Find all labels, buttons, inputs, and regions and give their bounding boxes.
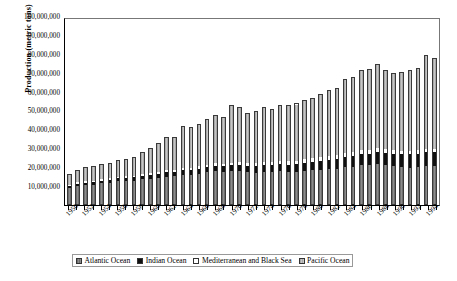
bar-segment bbox=[238, 108, 241, 162]
bar bbox=[327, 90, 332, 205]
legend-label: Mediterranean and Black Sea bbox=[202, 257, 292, 265]
bar-segment bbox=[376, 152, 379, 164]
bar-segment bbox=[295, 172, 298, 204]
y-axis-tick-label: 90,000,000 bbox=[28, 33, 60, 40]
bar bbox=[91, 166, 96, 205]
legend-swatch-icon bbox=[193, 258, 199, 264]
bar-segment bbox=[352, 156, 355, 166]
bar bbox=[99, 164, 104, 205]
bar-segment bbox=[214, 171, 217, 204]
legend-label: Pacific Ocean bbox=[307, 257, 349, 265]
bar-segment bbox=[287, 172, 290, 204]
bar-segment bbox=[206, 120, 209, 165]
x-axis-tick-label: 1986 bbox=[359, 203, 374, 218]
bar bbox=[416, 68, 421, 205]
bar bbox=[245, 113, 250, 205]
bar bbox=[213, 115, 218, 205]
bar-segment bbox=[157, 178, 160, 204]
bar-segment bbox=[384, 165, 387, 204]
x-axis-tick-label: 1970 bbox=[229, 203, 244, 218]
bar bbox=[351, 77, 356, 205]
bar-segment bbox=[319, 161, 322, 169]
bar-segment bbox=[279, 106, 282, 161]
bar bbox=[197, 124, 202, 205]
bar-segment bbox=[173, 176, 176, 204]
bar-segment bbox=[165, 177, 168, 204]
y-axis-tick-label: 60,000,000 bbox=[28, 90, 60, 97]
plot-area bbox=[64, 18, 440, 206]
bar bbox=[181, 126, 186, 205]
bar-segment bbox=[384, 71, 387, 150]
bar-segment bbox=[368, 154, 371, 165]
bar-segment bbox=[425, 166, 428, 204]
bar-segment bbox=[190, 128, 193, 167]
bar-segment bbox=[255, 173, 258, 204]
y-axis-tick-label: 50,000,000 bbox=[28, 108, 60, 115]
bar-segment bbox=[336, 89, 339, 155]
bar-segment bbox=[344, 80, 347, 153]
bar-segment bbox=[149, 179, 152, 204]
y-axis-tick-label: 30,000,000 bbox=[28, 146, 60, 153]
y-axis-tick-label: 80,000,000 bbox=[28, 52, 60, 59]
legend-swatch-icon bbox=[137, 258, 143, 264]
bar-segment bbox=[125, 160, 128, 177]
bar-segment bbox=[76, 171, 79, 182]
bar-segment bbox=[400, 154, 403, 167]
bar-segment bbox=[384, 153, 387, 165]
bar-segment bbox=[352, 167, 355, 204]
bar bbox=[310, 98, 315, 205]
bar bbox=[124, 159, 129, 205]
bar bbox=[424, 55, 429, 205]
bar-segment bbox=[409, 154, 412, 167]
y-axis-tick-label: 10,000,000 bbox=[28, 184, 60, 191]
bar bbox=[83, 167, 88, 205]
bar-segment bbox=[417, 154, 420, 168]
x-axis-tick-label: 1982 bbox=[327, 203, 342, 218]
x-axis-tick-label: 1956 bbox=[114, 203, 129, 218]
bar bbox=[108, 163, 113, 205]
bar-segment bbox=[344, 157, 347, 167]
bar bbox=[116, 160, 121, 205]
bar bbox=[67, 174, 72, 205]
bar-segment bbox=[206, 172, 209, 204]
bar-segment bbox=[157, 144, 160, 172]
x-axis-tick-label: 1960 bbox=[147, 203, 162, 218]
bar-segment bbox=[360, 165, 363, 204]
bar-segment bbox=[230, 106, 233, 162]
bar-segment bbox=[336, 169, 339, 204]
legend-label: Atlantic Ocean bbox=[85, 257, 131, 265]
bar-segment bbox=[433, 166, 436, 204]
legend-item: Atlantic Ocean bbox=[76, 257, 130, 265]
bar-segment bbox=[360, 71, 363, 150]
y-axis-tick-label: 40,000,000 bbox=[28, 127, 60, 134]
bar bbox=[164, 137, 169, 205]
bar bbox=[278, 105, 283, 205]
bar bbox=[432, 58, 437, 205]
bar-segment bbox=[198, 125, 201, 166]
x-axis-tick-label: 1984 bbox=[343, 203, 358, 218]
bar-segment bbox=[417, 167, 420, 204]
x-axis-tick-label: 1990 bbox=[392, 203, 407, 218]
bar-segment bbox=[392, 166, 395, 204]
bar-segment bbox=[133, 158, 136, 176]
bar-segment bbox=[271, 172, 274, 204]
y-axis-tick-label: 20,000,000 bbox=[28, 165, 60, 172]
bar bbox=[318, 94, 323, 205]
bar bbox=[132, 157, 137, 205]
x-axis-tick-label: 1962 bbox=[163, 203, 178, 218]
bar-segment bbox=[133, 181, 136, 204]
bar-segment bbox=[92, 185, 95, 204]
bar-segment bbox=[433, 59, 436, 148]
bar bbox=[408, 70, 413, 205]
bar bbox=[367, 69, 372, 205]
bar-segment bbox=[433, 152, 436, 166]
bar bbox=[335, 88, 340, 205]
legend-swatch-icon bbox=[76, 258, 82, 264]
bar bbox=[205, 119, 210, 205]
bar-segment bbox=[182, 175, 185, 204]
bar-segment bbox=[263, 108, 266, 162]
bar bbox=[75, 170, 80, 205]
bar bbox=[375, 64, 380, 205]
bar-series-group bbox=[65, 19, 439, 205]
bar-segment bbox=[222, 118, 225, 164]
